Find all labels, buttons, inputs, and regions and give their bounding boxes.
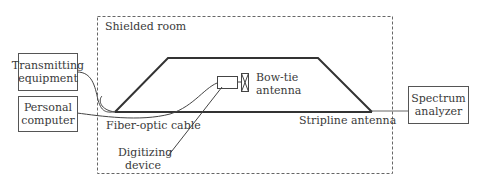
transmitting-label-2: equipment: [12, 72, 84, 85]
digitizing-device-label: Digitizing device: [118, 146, 168, 172]
spectrum-analyzer-box: Spectrum analyzer: [408, 86, 469, 124]
transmitting-equipment-box: Transmitting equipment: [18, 53, 78, 91]
bowtie-label-2: antenna: [256, 84, 301, 97]
bowtie-label-1: Bow-tie: [256, 71, 301, 84]
fiber-optic-label: Fiber-optic cable: [106, 119, 201, 132]
stripline-label: Stripline antenna: [299, 114, 396, 127]
analyzer-label-2: analyzer: [411, 105, 465, 118]
bowtie-antenna-label: Bow-tie antenna: [256, 71, 301, 97]
shielded-room-label: Shielded room: [105, 20, 186, 33]
digitizing-label-2: device: [118, 159, 168, 172]
analyzer-label-1: Spectrum: [411, 92, 465, 105]
transmitting-label-1: Transmitting: [12, 59, 84, 72]
digitizing-device-box: [218, 77, 238, 89]
digitizing-label-1: Digitizing: [118, 146, 168, 159]
computer-label-1: Personal: [21, 101, 75, 114]
personal-computer-box: Personal computer: [18, 96, 78, 132]
computer-label-2: computer: [21, 114, 75, 127]
